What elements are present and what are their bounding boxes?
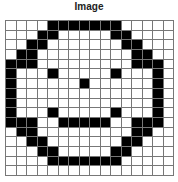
pixel-cell-white [6, 40, 17, 50]
pixel-cell-white [69, 147, 80, 157]
pixel-cell-white [17, 69, 28, 79]
pixel-cell-black [80, 21, 91, 31]
pixel-cell-white [122, 79, 133, 89]
pixel-cell-black [153, 60, 164, 70]
pixel-cell-white [59, 31, 70, 41]
pixel-cell-white [48, 128, 59, 138]
pixel-cell-white [132, 89, 143, 99]
pixel-cell-white [17, 31, 28, 41]
pixel-cell-white [101, 79, 112, 89]
pixel-cell-white [69, 79, 80, 89]
pixel-cell-white [80, 166, 91, 176]
pixel-cell-white [38, 166, 49, 176]
pixel-cell-white [143, 166, 154, 176]
pixel-cell-white [80, 69, 91, 79]
pixel-cell-white [27, 147, 38, 157]
pixel-cell-white [80, 137, 91, 147]
pixel-cell-white [111, 79, 122, 89]
pixel-cell-white [90, 99, 101, 109]
pixel-cell-white [17, 137, 28, 147]
pixel-cell-black [48, 69, 59, 79]
pixel-cell-black [27, 40, 38, 50]
pixel-cell-white [38, 50, 49, 60]
pixel-cell-white [59, 137, 70, 147]
pixel-cell-white [69, 50, 80, 60]
pixel-cell-black [38, 147, 49, 157]
pixel-cell-white [164, 89, 175, 99]
pixel-cell-white [111, 60, 122, 70]
pixel-cell-white [59, 128, 70, 138]
pixel-cell-black [122, 147, 133, 157]
pixel-cell-white [17, 21, 28, 31]
pixel-cell-white [101, 166, 112, 176]
pixel-cell-white [80, 89, 91, 99]
pixel-cell-black [69, 157, 80, 167]
pixel-cell-white [164, 157, 175, 167]
pixel-cell-white [17, 157, 28, 167]
pixel-cell-black [101, 118, 112, 128]
pixel-cell-white [69, 99, 80, 109]
pixel-cell-white [90, 166, 101, 176]
pixel-cell-white [6, 50, 17, 60]
pixel-cell-white [143, 21, 154, 31]
pixel-cell-white [59, 147, 70, 157]
pixel-cell-black [90, 118, 101, 128]
pixel-cell-black [17, 128, 28, 138]
pixel-cell-white [69, 31, 80, 41]
pixel-cell-white [48, 50, 59, 60]
pixel-cell-black [101, 157, 112, 167]
pixel-cell-white [6, 157, 17, 167]
pixel-cell-black [132, 50, 143, 60]
pixel-cell-black [153, 118, 164, 128]
pixel-cell-white [80, 128, 91, 138]
pixel-cell-white [101, 89, 112, 99]
pixel-cell-white [48, 166, 59, 176]
pixel-cell-white [143, 108, 154, 118]
pixel-cell-white [101, 50, 112, 60]
pixel-cell-white [48, 118, 59, 128]
pixel-cell-black [48, 147, 59, 157]
pixel-cell-white [69, 166, 80, 176]
pixel-cell-black [101, 21, 112, 31]
pixel-cell-white [122, 21, 133, 31]
pixel-cell-white [27, 79, 38, 89]
pixel-cell-white [69, 137, 80, 147]
pixel-cell-white [132, 21, 143, 31]
pixel-cell-white [6, 147, 17, 157]
pixel-cell-white [164, 60, 175, 70]
pixel-cell-black [6, 108, 17, 118]
pixel-cell-white [164, 166, 175, 176]
pixel-cell-white [153, 50, 164, 60]
pixel-cell-black [6, 60, 17, 70]
pixel-cell-white [17, 147, 28, 157]
pixel-cell-white [153, 40, 164, 50]
pixel-cell-white [27, 157, 38, 167]
pixel-cell-white [59, 79, 70, 89]
pixel-cell-white [132, 147, 143, 157]
pixel-cell-white [153, 137, 164, 147]
pixel-cell-black [59, 118, 70, 128]
pixel-cell-white [38, 99, 49, 109]
pixel-cell-white [111, 89, 122, 99]
pixel-cell-black [122, 137, 133, 147]
pixel-cell-white [90, 31, 101, 41]
pixel-cell-white [132, 99, 143, 109]
pixel-cell-white [69, 108, 80, 118]
pixel-cell-white [164, 118, 175, 128]
pixel-cell-white [38, 157, 49, 167]
pixel-cell-white [101, 31, 112, 41]
pixel-cell-black [143, 128, 154, 138]
pixel-cell-white [164, 69, 175, 79]
pixel-cell-black [80, 157, 91, 167]
pixel-cell-black [48, 108, 59, 118]
pixel-cell-white [48, 99, 59, 109]
pixel-cell-black [27, 128, 38, 138]
pixel-cell-white [164, 79, 175, 89]
pixel-cell-white [90, 89, 101, 99]
pixel-cell-black [132, 128, 143, 138]
pixel-cell-white [48, 137, 59, 147]
pixel-cell-white [122, 60, 133, 70]
pixel-cell-white [69, 40, 80, 50]
pixel-cell-white [111, 118, 122, 128]
pixel-cell-white [153, 31, 164, 41]
